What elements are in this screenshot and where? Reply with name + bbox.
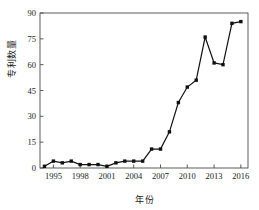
data-point-marker bbox=[239, 20, 242, 23]
x-axis-label: 年份 bbox=[40, 193, 249, 206]
data-point-marker bbox=[61, 161, 64, 164]
data-point-marker bbox=[96, 163, 99, 166]
data-point-marker bbox=[203, 35, 206, 38]
data-series-line bbox=[44, 22, 240, 167]
data-point-marker bbox=[221, 63, 224, 66]
data-point-marker bbox=[195, 78, 198, 81]
data-point-marker bbox=[105, 165, 108, 168]
data-point-marker bbox=[78, 163, 81, 166]
data-point-marker bbox=[43, 165, 46, 168]
data-point-marker bbox=[70, 159, 73, 162]
data-point-marker bbox=[141, 159, 144, 162]
data-point-marker bbox=[52, 159, 55, 162]
x-axis-tick-labels: 19951998200120042007201020132016 bbox=[0, 172, 259, 186]
data-point-marker bbox=[114, 161, 117, 164]
data-point-marker bbox=[87, 163, 90, 166]
axis-frame bbox=[40, 13, 248, 168]
data-point-marker bbox=[230, 22, 233, 25]
data-point-marker bbox=[123, 159, 126, 162]
chart-figure: 专利数量 0153045607590 199519982001200420072… bbox=[0, 0, 259, 210]
data-point-marker bbox=[168, 130, 171, 133]
data-point-marker bbox=[212, 61, 215, 64]
data-point-marker bbox=[150, 147, 153, 150]
data-point-marker bbox=[177, 101, 180, 104]
x-tick-label: 2016 bbox=[224, 172, 258, 181]
data-point-marker bbox=[186, 85, 189, 88]
data-point-marker bbox=[132, 159, 135, 162]
data-point-marker bbox=[159, 147, 162, 150]
